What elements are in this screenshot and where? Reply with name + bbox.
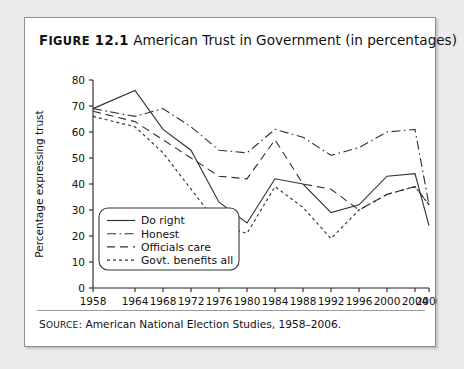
series-line-honest: [93, 109, 429, 205]
source-text: American National Election Studies, 1958…: [86, 318, 342, 330]
svg-text:1996: 1996: [346, 295, 373, 307]
svg-text:60: 60: [72, 126, 85, 138]
svg-text:70: 70: [72, 100, 85, 112]
svg-text:1988: 1988: [290, 295, 317, 307]
trust-line-chart: 0102030405060708019581964196819721976198…: [25, 58, 437, 333]
series-line-officials-care: [93, 111, 429, 210]
legend-label-do-right: Do right: [141, 214, 185, 227]
series-line-do-right: [93, 90, 429, 225]
svg-text:Percentage expressing trust: Percentage expressing trust: [33, 110, 45, 257]
svg-text:1964: 1964: [122, 295, 149, 307]
svg-text:2006: 2006: [416, 295, 437, 307]
svg-text:40: 40: [72, 178, 85, 190]
chart-legend: Do rightHonestOfficials careGovt. benefi…: [99, 208, 239, 270]
svg-text:50: 50: [72, 152, 85, 164]
svg-text:30: 30: [72, 204, 85, 216]
svg-text:1968: 1968: [150, 295, 177, 307]
svg-text:1980: 1980: [234, 295, 261, 307]
chart-plot-area: 0102030405060708019581964196819721976198…: [25, 58, 437, 333]
legend-label-honest: Honest: [141, 228, 179, 241]
svg-text:1976: 1976: [206, 295, 233, 307]
svg-text:10: 10: [72, 256, 85, 268]
figure-title-text: American Trust in Government (in percent…: [133, 32, 457, 48]
svg-text:1984: 1984: [262, 295, 289, 307]
legend-label-officials-care: Officials care: [141, 241, 211, 254]
figure-number: FIGURE 12.1: [39, 34, 129, 48]
figure-caption: FIGURE 12.1 American Trust in Government…: [39, 32, 429, 48]
svg-text:20: 20: [72, 230, 85, 242]
figure-container: FIGURE 12.1 American Trust in Government…: [24, 17, 436, 347]
svg-text:80: 80: [72, 74, 85, 86]
svg-text:1992: 1992: [318, 295, 345, 307]
legend-label-govt-benefits-all: Govt. benefits all: [141, 254, 233, 267]
svg-text:2000: 2000: [374, 295, 401, 307]
source-divider: [37, 310, 425, 311]
source-note: SOURCE: American National Election Studi…: [39, 318, 341, 330]
svg-text:1972: 1972: [178, 295, 205, 307]
svg-text:1958: 1958: [80, 295, 107, 307]
svg-text:0: 0: [78, 282, 85, 294]
source-label: SOURCE:: [39, 318, 82, 330]
